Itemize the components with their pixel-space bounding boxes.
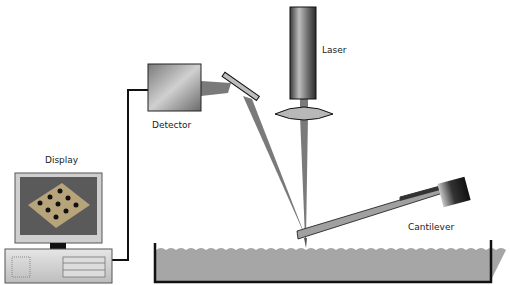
laser-beams [201,81,308,238]
computer [5,173,112,283]
display-label: Display [45,155,78,165]
afm-diagram [0,0,510,285]
cantilever [297,177,471,248]
lens-icon [275,107,333,120]
detector [148,64,201,111]
laser-label: Laser [322,45,346,55]
detector-label: Detector [152,120,191,130]
sample-bath [155,240,506,282]
cantilever-label: Cantilever [408,222,454,232]
cable [112,90,148,260]
